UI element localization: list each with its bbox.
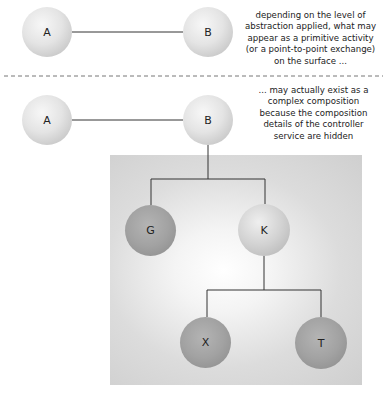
edge-b-g-k — [151, 179, 265, 205]
node-k: K — [238, 204, 290, 256]
note-line: complex composition — [246, 96, 381, 107]
note-line: abstraction applied, what may — [238, 21, 383, 32]
bottom-note: ... may actually exist as a complex comp… — [246, 85, 381, 142]
node-label: B — [204, 26, 212, 39]
node-b-bottom: B — [183, 95, 233, 145]
node-b-top: B — [183, 7, 233, 57]
node-label: T — [318, 337, 325, 350]
note-line: (or a point-to-point exchange) — [238, 44, 383, 55]
note-line: because the composition — [246, 108, 381, 119]
note-line: on the surface ... — [238, 56, 383, 67]
top-note: depending on the level of abstraction ap… — [238, 10, 383, 67]
node-a-top: A — [22, 7, 72, 57]
node-label: K — [260, 224, 267, 237]
node-label: A — [43, 26, 51, 39]
edge-k-x-t — [207, 290, 321, 317]
node-x: X — [180, 317, 231, 368]
node-label: A — [43, 114, 51, 127]
note-line: appear as a primitive activity — [238, 33, 383, 44]
node-label: B — [204, 114, 212, 127]
note-line: details of the controller — [246, 119, 381, 130]
note-line: depending on the level of — [238, 10, 383, 21]
note-line: ... may actually exist as a — [246, 85, 381, 96]
node-a-bottom: A — [22, 95, 72, 145]
node-label: X — [202, 336, 210, 349]
node-t: T — [295, 317, 347, 369]
node-label: G — [146, 224, 155, 237]
note-line: service are hidden — [246, 131, 381, 142]
node-g: G — [125, 205, 176, 256]
